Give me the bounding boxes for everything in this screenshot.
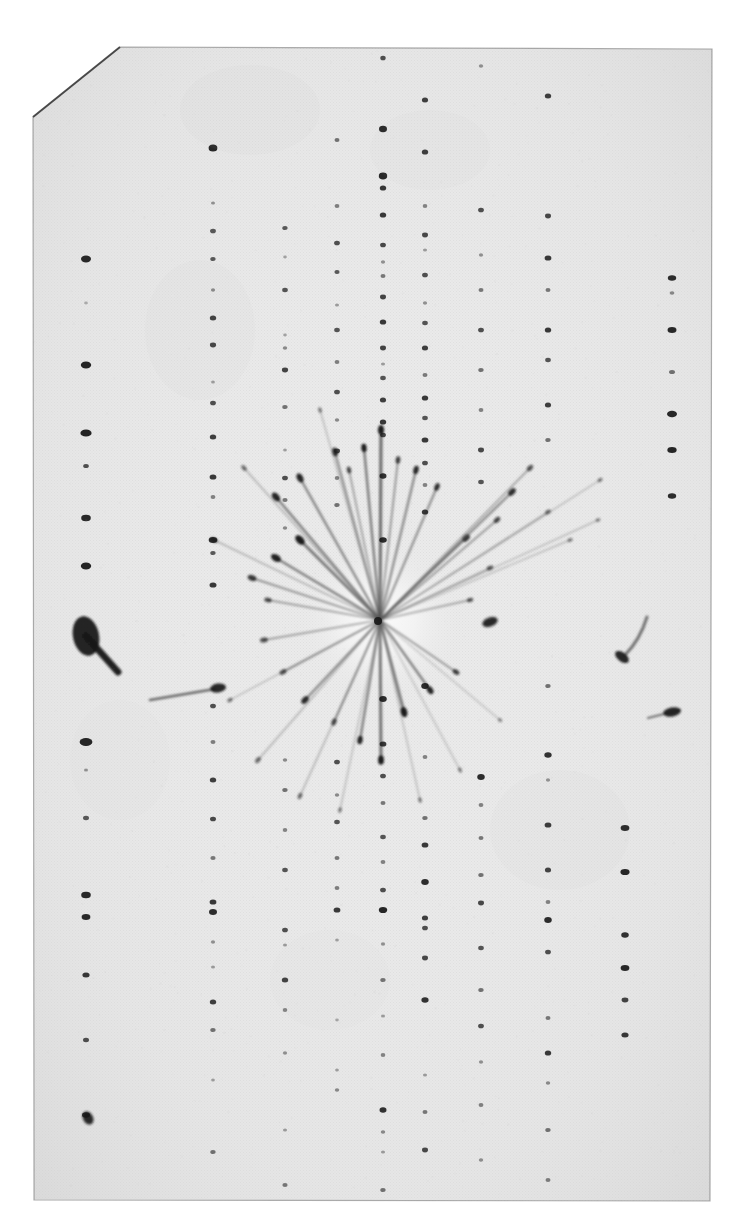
grain-speck bbox=[601, 84, 603, 86]
grain-speck bbox=[305, 58, 307, 60]
grain-speck bbox=[348, 450, 350, 452]
grain-speck bbox=[665, 802, 666, 804]
grain-speck bbox=[119, 883, 121, 884]
grain-speck bbox=[184, 1099, 185, 1100]
grain-speck bbox=[73, 99, 75, 100]
grain-speck bbox=[462, 1120, 464, 1122]
grain-speck bbox=[194, 400, 195, 402]
grain-speck bbox=[675, 188, 677, 189]
grain-speck bbox=[536, 107, 538, 109]
grain-speck bbox=[437, 856, 438, 857]
grain-speck bbox=[447, 308, 449, 309]
grain-speck bbox=[416, 61, 418, 62]
grain-speck bbox=[574, 943, 576, 944]
grain-speck bbox=[76, 306, 78, 308]
grain-speck bbox=[276, 548, 277, 549]
grain-speck bbox=[700, 1024, 702, 1025]
grain-speck bbox=[187, 854, 189, 855]
grain-speck bbox=[261, 407, 263, 408]
grain-speck bbox=[361, 823, 363, 824]
grain-speck bbox=[491, 691, 492, 693]
grain-speck bbox=[377, 915, 379, 917]
grain-speck bbox=[635, 969, 636, 970]
grain-speck bbox=[431, 521, 432, 522]
grain-speck bbox=[161, 118, 163, 120]
grain-speck bbox=[104, 971, 106, 973]
grain-speck bbox=[494, 988, 495, 990]
grain-speck bbox=[653, 770, 655, 772]
grain-speck bbox=[447, 1156, 449, 1158]
grain-speck bbox=[372, 789, 374, 790]
grain-speck bbox=[470, 194, 472, 195]
grain-speck bbox=[94, 256, 95, 258]
grain-speck bbox=[180, 396, 181, 398]
diffraction-spot bbox=[210, 582, 217, 587]
grain-speck bbox=[683, 446, 685, 448]
grain-speck bbox=[235, 451, 236, 453]
grain-speck bbox=[653, 1132, 654, 1134]
grain-speck bbox=[75, 554, 76, 556]
grain-speck bbox=[319, 784, 321, 786]
grain-speck bbox=[188, 516, 189, 518]
grain-speck bbox=[50, 989, 52, 991]
grain-speck bbox=[581, 98, 582, 99]
grain-speck bbox=[683, 848, 684, 850]
grain-speck bbox=[695, 617, 696, 619]
grain-speck bbox=[365, 1146, 367, 1148]
diffraction-spot bbox=[478, 328, 484, 333]
grain-speck bbox=[99, 1014, 100, 1016]
diffraction-spot bbox=[380, 774, 386, 779]
grain-speck bbox=[126, 684, 127, 686]
grain-speck bbox=[527, 715, 528, 716]
grain-speck bbox=[530, 589, 532, 590]
grain-speck bbox=[60, 109, 62, 110]
grain-speck bbox=[608, 750, 610, 752]
grain-speck bbox=[512, 431, 513, 433]
grain-speck bbox=[108, 492, 110, 493]
grain-speck bbox=[335, 1047, 337, 1049]
grain-speck bbox=[292, 582, 293, 584]
grain-speck bbox=[210, 188, 212, 189]
diffraction-spot bbox=[421, 879, 429, 885]
grain-speck bbox=[156, 481, 158, 483]
grain-speck bbox=[527, 616, 529, 618]
grain-speck bbox=[51, 483, 53, 484]
diffraction-spot bbox=[334, 270, 339, 274]
grain-speck bbox=[527, 656, 529, 658]
grain-speck bbox=[693, 965, 694, 966]
grain-speck bbox=[383, 522, 384, 524]
grain-speck bbox=[705, 435, 706, 437]
grain-speck bbox=[194, 448, 196, 450]
diffraction-spot bbox=[283, 526, 287, 530]
grain-speck bbox=[490, 1135, 492, 1136]
grain-speck bbox=[278, 166, 279, 167]
grain-speck bbox=[630, 1064, 632, 1065]
grain-speck bbox=[402, 889, 403, 890]
grain-speck bbox=[88, 996, 89, 998]
grain-speck bbox=[522, 968, 523, 969]
grain-speck bbox=[152, 1108, 154, 1110]
grain-speck bbox=[662, 553, 664, 555]
grain-speck bbox=[56, 387, 57, 388]
grain-speck bbox=[332, 531, 333, 532]
grain-speck bbox=[652, 96, 653, 98]
grain-speck bbox=[357, 597, 359, 599]
grain-speck bbox=[166, 621, 167, 622]
grain-speck bbox=[320, 638, 321, 640]
grain-speck bbox=[492, 343, 493, 344]
grain-speck bbox=[268, 1055, 269, 1057]
grain-speck bbox=[246, 1043, 248, 1044]
grain-speck bbox=[179, 428, 180, 429]
grain-speck bbox=[597, 171, 599, 173]
grain-speck bbox=[318, 361, 320, 362]
grain-speck bbox=[311, 365, 313, 367]
grain-speck bbox=[471, 573, 473, 574]
grain-speck bbox=[223, 969, 224, 970]
grain-speck bbox=[473, 916, 475, 918]
grain-speck bbox=[419, 743, 421, 744]
grain-speck bbox=[187, 258, 189, 260]
grain-speck bbox=[536, 703, 538, 705]
grain-speck bbox=[486, 631, 488, 633]
grain-speck bbox=[707, 1130, 709, 1131]
grain-speck bbox=[646, 100, 647, 102]
